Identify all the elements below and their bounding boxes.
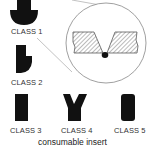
class-1-insert-shape [10,0,38,25]
class-1-label: CLASS 1 [11,27,43,36]
class-5-insert-shape [121,94,135,121]
class-3-label: CLASS 3 [10,126,42,135]
class-3-insert-shape [15,94,28,121]
class-4-insert-shape [63,94,87,121]
class-2-insert-shape [16,45,32,73]
class-5-label: CLASS 5 [114,126,146,135]
class-2-label: CLASS 2 [11,78,43,87]
root-insert [102,52,109,58]
diagram-caption: consumable insert [38,137,107,147]
class-4-label: CLASS 4 [61,126,93,135]
